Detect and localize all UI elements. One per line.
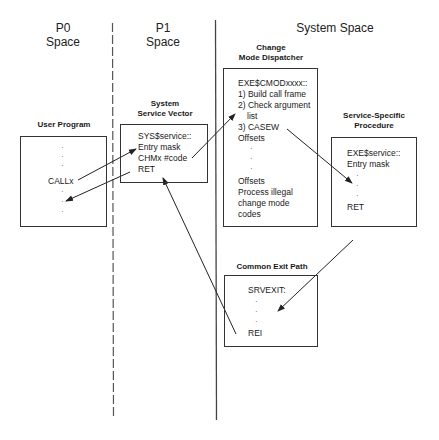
ssp-line-exe-service: EXE$service:: xyxy=(347,148,400,159)
cmd-line-codes: codes xyxy=(238,209,261,220)
ellipsis-dot: · xyxy=(356,172,359,180)
cmd-title-line2: Mode Dispatcher xyxy=(222,53,320,63)
cmd-line-process-illegal: Process illegal xyxy=(238,187,293,198)
ellipsis-dot: · xyxy=(255,308,258,316)
ssv-line-sys-service: SYS$service:: xyxy=(138,131,191,142)
ellipsis-dot: · xyxy=(61,162,64,170)
service-specific-procedure-title: Service-Specific Procedure xyxy=(326,111,422,131)
change-mode-dispatcher-title: Change Mode Dispatcher xyxy=(222,43,320,63)
cmd-line-check-argument: 2) Check argument xyxy=(238,100,310,111)
ssv-title-line1: System xyxy=(120,99,210,109)
cmd-line-offsets: Offsets xyxy=(238,133,265,144)
ellipsis-dot: · xyxy=(250,165,253,173)
ssp-line-ret: RET xyxy=(347,202,364,213)
ssv-title-line2: Service Vector xyxy=(120,109,210,119)
ssp-title-line1: Service-Specific xyxy=(326,111,422,121)
p1-system-divider xyxy=(216,20,217,420)
cmd-line-exe-cmod: EXE$CMODxxxx:: xyxy=(238,78,307,89)
ssv-line-chmx: CHMx #code xyxy=(138,153,187,164)
p0-p1-divider xyxy=(113,23,114,418)
ellipsis-dot: · xyxy=(250,145,253,153)
ssv-line-ret: RET xyxy=(138,164,155,175)
system-service-vector-title: System Service Vector xyxy=(120,99,210,119)
cmd-line-casew: 3) CASEW xyxy=(238,122,279,133)
cep-rei: REI xyxy=(248,328,262,339)
ssp-title-line2: Procedure xyxy=(326,121,422,131)
user-program-title: User Program xyxy=(18,120,110,130)
ellipsis-dot: · xyxy=(61,153,64,161)
ellipsis-dot: · xyxy=(250,155,253,163)
ellipsis-dot: · xyxy=(61,198,64,206)
ellipsis-dot: · xyxy=(61,188,64,196)
cmd-line-change-mode: change mode xyxy=(238,198,290,209)
cep-srvexit: SRVEXIT: xyxy=(248,285,286,296)
cmd-title-line1: Change xyxy=(222,43,320,53)
ellipsis-dot: · xyxy=(356,182,359,190)
ellipsis-dot: · xyxy=(61,144,64,152)
cmd-line-offsets-bottom: Offsets xyxy=(238,176,265,187)
ellipsis-dot: · xyxy=(356,192,359,200)
callx-instruction: CALLx xyxy=(48,176,74,187)
ellipsis-dot: · xyxy=(61,208,64,216)
ssp-line-entry-mask: Entry mask xyxy=(347,159,390,170)
cmd-line-build-call-frame: 1) Build call frame xyxy=(238,89,306,100)
cmd-line-list: list xyxy=(247,111,257,122)
ellipsis-dot: · xyxy=(255,298,258,306)
ssv-line-entry-mask: Entry mask xyxy=(138,142,181,153)
ellipsis-dot: · xyxy=(255,318,258,326)
common-exit-path-title: Common Exit Path xyxy=(222,262,322,272)
